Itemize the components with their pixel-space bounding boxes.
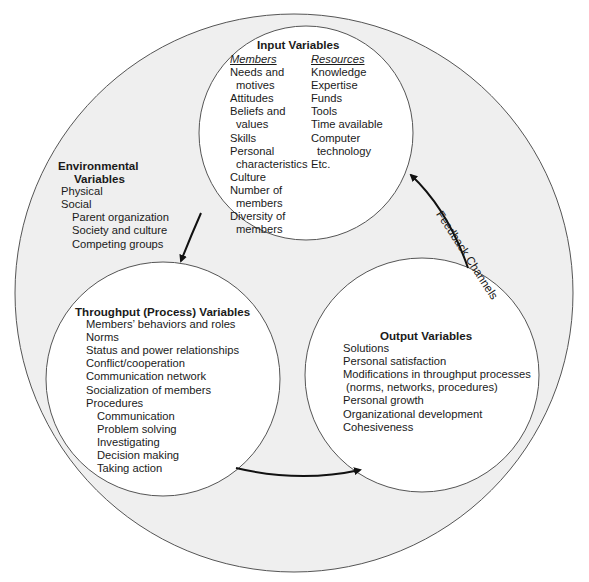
list-item: Culture <box>230 171 308 184</box>
environmental-title-1: Environmental <box>57 159 169 172</box>
list-item: Problem solving <box>75 423 250 436</box>
list-item: Status and power relationships <box>75 344 250 357</box>
list-item: technology <box>311 145 383 158</box>
output-variables-block: Output Variables Solutions Personal sati… <box>343 329 531 434</box>
list-item: Time available <box>311 118 383 131</box>
list-item: Socialization of members <box>75 384 250 397</box>
list-item: Beliefs and <box>230 105 308 118</box>
list-item: Parent organization <box>57 211 169 224</box>
list-item: Number of <box>230 184 308 197</box>
list-item: Norms <box>75 331 250 344</box>
input-variables-block: Input Variables <box>257 38 417 51</box>
list-item: Conflict/cooperation <box>75 357 250 370</box>
list-item: Tools <box>311 105 383 118</box>
list-item: Social <box>57 198 169 211</box>
list-item: Personal <box>230 145 308 158</box>
list-item: motives <box>230 79 308 92</box>
list-item: Personal satisfaction <box>343 355 531 368</box>
list-item: Personal growth <box>343 394 531 407</box>
throughput-variables-block: Throughput (Process) Variables Members’ … <box>75 305 250 475</box>
list-item: values <box>230 118 308 131</box>
throughput-title: Throughput (Process) Variables <box>75 305 250 318</box>
list-item: Competing groups <box>57 238 169 251</box>
input-members-column: Members Needs and motives Attitudes Beli… <box>230 53 308 236</box>
list-item: characteristics <box>230 158 308 171</box>
list-item: members <box>230 197 308 210</box>
resources-header: Resources <box>311 53 383 66</box>
list-item: Taking action <box>75 462 250 475</box>
list-item: Expertise <box>311 79 383 92</box>
list-item: Modifications in throughput processes <box>343 368 531 381</box>
list-item: Funds <box>311 92 383 105</box>
input-resources-column: Resources Knowledge Expertise Funds Tool… <box>311 53 383 171</box>
list-item: Members’ behaviors and roles <box>75 318 250 331</box>
members-header: Members <box>230 53 308 66</box>
list-item: members <box>230 223 308 236</box>
environmental-variables-block: Environmental Variables Physical Social … <box>57 159 169 251</box>
list-item: Solutions <box>343 342 531 355</box>
list-item: Computer <box>311 132 383 145</box>
list-item: Knowledge <box>311 66 383 79</box>
list-item: Society and culture <box>57 224 169 237</box>
list-item: Communication network <box>75 370 250 383</box>
list-item: Etc. <box>311 158 383 171</box>
list-item: Organizational development <box>343 408 531 421</box>
list-item: Diversity of <box>230 210 308 223</box>
output-title: Output Variables <box>343 329 531 342</box>
list-item: Cohesiveness <box>343 421 531 434</box>
list-item: Physical <box>57 185 169 198</box>
list-item: Communication <box>75 410 250 423</box>
list-item: Decision making <box>75 449 250 462</box>
input-title: Input Variables <box>257 38 417 51</box>
list-item: Needs and <box>230 66 308 79</box>
list-item: Procedures <box>75 397 250 410</box>
environmental-title-2: Variables <box>57 172 169 185</box>
list-item: Skills <box>230 132 308 145</box>
list-item: Investigating <box>75 436 250 449</box>
list-item: Attitudes <box>230 92 308 105</box>
list-item: (norms, networks, procedures) <box>343 381 531 394</box>
